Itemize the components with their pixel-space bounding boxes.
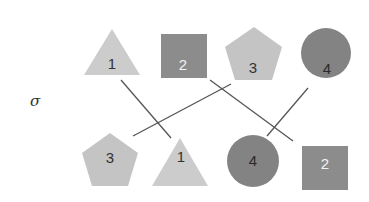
shape-label: 3 — [249, 59, 257, 76]
shape-label: 1 — [108, 55, 116, 72]
line-2-to-2 — [210, 80, 293, 141]
line-4-to-4 — [267, 88, 308, 136]
shape-label: 4 — [323, 60, 331, 77]
bottom-circle-4: 4 — [227, 135, 279, 187]
bottom-row: 3 1 4 2 — [82, 133, 348, 190]
top-triangle-1: 1 — [84, 29, 140, 75]
top-pentagon-3: 3 — [225, 27, 282, 80]
permutation-diagram: σ 1 2 3 4 3 1 — [0, 0, 369, 202]
shape-label: 2 — [179, 56, 187, 73]
permutation-lines — [121, 80, 308, 141]
sigma-symbol: σ — [30, 92, 41, 110]
shape-label: 1 — [177, 148, 185, 165]
shape-label: 4 — [249, 152, 257, 169]
top-row: 1 2 3 4 — [84, 27, 351, 80]
top-square-2: 2 — [161, 34, 207, 78]
shape-label: 2 — [321, 155, 329, 172]
shape-label: 3 — [106, 149, 114, 166]
bottom-square-2: 2 — [302, 146, 348, 190]
bottom-triangle-1: 1 — [152, 138, 208, 186]
top-circle-4: 4 — [301, 28, 351, 78]
bottom-pentagon-3: 3 — [82, 133, 138, 186]
